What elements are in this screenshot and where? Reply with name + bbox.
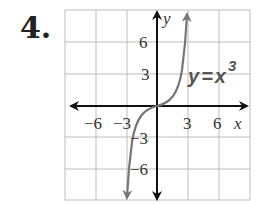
x-axis-label: x [233,114,242,133]
x-tick-6: 6 [213,114,222,133]
y-tick-neg3: −3 [130,129,148,148]
x-tick-neg3: −3 [113,114,131,133]
y-tick-neg6: −6 [130,160,148,179]
y-axis-label: y [161,9,171,28]
cubic-graph: −6 −3 3 6 x 6 3 −3 −6 y y=x3 [0,0,257,204]
equation-label: y=x3 [187,57,237,87]
y-tick-3: 3 [141,65,150,84]
x-tick-3: 3 [183,114,192,133]
x-tick-neg6: −6 [84,114,102,133]
cubic-curve [157,15,187,106]
y-tick-6: 6 [139,33,148,52]
